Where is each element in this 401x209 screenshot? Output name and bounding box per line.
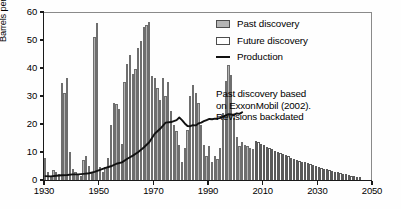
plot-area <box>44 12 372 180</box>
x-tick-label: 2010 <box>243 186 283 196</box>
chart-legend: Past discovery Future discovery Producti… <box>216 17 308 67</box>
legend-item-production: Production <box>216 50 308 64</box>
x-tick-label: 2050 <box>352 186 392 196</box>
y-tick-label: 40 <box>4 63 37 73</box>
y-tick-label: 20 <box>4 119 37 129</box>
legend-item-past-discovery: Past discovery <box>216 17 308 31</box>
chart-annotation: Past discovery based on ExxonMobil (2002… <box>216 88 311 123</box>
future-discovery-swatch-icon <box>216 37 230 45</box>
legend-item-future-discovery: Future discovery <box>216 34 308 48</box>
annotation-line-2: on ExxonMobil (2002). <box>216 100 311 112</box>
legend-label: Production <box>237 52 283 62</box>
x-tick-label: 1950 <box>79 186 119 196</box>
legend-label: Past discovery <box>237 19 299 29</box>
legend-label: Future discovery <box>237 36 308 46</box>
production-line <box>44 12 372 180</box>
production-line-swatch-icon <box>216 53 230 61</box>
y-tick-label: 0 <box>4 175 37 185</box>
chart-figure: Barrels per Year (in billions) 010203040… <box>0 0 401 209</box>
x-tick-label: 1930 <box>24 186 64 196</box>
x-tick-label: 2030 <box>297 186 337 196</box>
y-tick-label: 10 <box>4 147 37 157</box>
annotation-line-1: Past discovery based <box>216 88 311 100</box>
x-tick-label: 1970 <box>133 186 173 196</box>
y-tick-label: 30 <box>4 91 37 101</box>
y-tick-label: 50 <box>4 35 37 45</box>
annotation-line-3: Revisions backdated <box>216 111 311 123</box>
y-tick-label: 60 <box>4 7 37 17</box>
x-tick-label: 1990 <box>188 186 228 196</box>
past-discovery-swatch-icon <box>216 20 230 28</box>
